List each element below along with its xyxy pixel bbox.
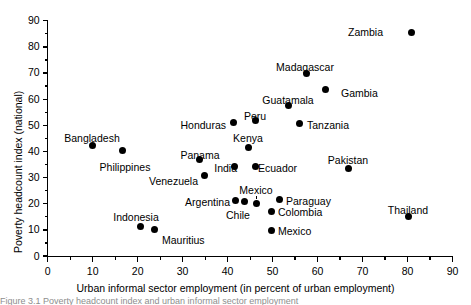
figure-caption: Figure 3.1 Poverty headcount index and u… bbox=[0, 296, 471, 305]
x-tick bbox=[407, 256, 408, 261]
data-point-label: Pakistan bbox=[288, 155, 408, 166]
y-tick-label: 80 bbox=[4, 41, 40, 52]
x-tick bbox=[317, 256, 318, 261]
data-point[interactable] bbox=[201, 172, 208, 179]
x-tick bbox=[227, 256, 228, 261]
x-minor-tick bbox=[205, 256, 206, 260]
x-tick bbox=[362, 256, 363, 261]
x-minor-tick bbox=[384, 256, 385, 260]
data-point-label: Argentina bbox=[0, 197, 230, 208]
data-point-label: Colombia bbox=[278, 207, 322, 218]
x-tick bbox=[272, 256, 273, 261]
x-tick-label: 50 bbox=[253, 266, 293, 277]
data-point[interactable] bbox=[296, 120, 303, 127]
y-minor-tick bbox=[45, 242, 49, 243]
data-point-label: Kenya bbox=[188, 133, 308, 144]
data-point[interactable] bbox=[408, 29, 415, 36]
x-tick-label: 30 bbox=[163, 266, 203, 277]
y-tick bbox=[43, 229, 48, 230]
x-tick-label: 10 bbox=[73, 266, 113, 277]
x-minor-tick bbox=[429, 256, 430, 260]
x-tick-label: 80 bbox=[388, 266, 428, 277]
x-tick bbox=[47, 256, 48, 261]
y-minor-tick bbox=[45, 112, 49, 113]
data-point-label: Mexico bbox=[196, 185, 316, 196]
data-point-label: Thailand bbox=[348, 205, 468, 216]
x-tick-label: 40 bbox=[208, 266, 248, 277]
y-tick bbox=[43, 99, 48, 100]
x-tick-label: 90 bbox=[433, 266, 471, 277]
x-tick-label: 0 bbox=[28, 266, 68, 277]
data-point-label: Paraguay bbox=[286, 196, 331, 207]
data-point-label: Panama bbox=[140, 150, 260, 161]
data-point[interactable] bbox=[119, 147, 126, 154]
y-tick bbox=[43, 20, 48, 21]
data-point[interactable] bbox=[253, 200, 260, 207]
x-tick-label: 60 bbox=[298, 266, 338, 277]
y-minor-tick bbox=[45, 216, 49, 217]
x-tick bbox=[137, 256, 138, 261]
x-tick bbox=[92, 256, 93, 261]
data-point[interactable] bbox=[276, 196, 283, 203]
data-point-label: Tanzania bbox=[307, 120, 349, 131]
y-minor-tick bbox=[45, 190, 49, 191]
x-axis-title: Urban informal sector employment (in per… bbox=[0, 283, 471, 294]
scatter-chart: 0102030405060708090 0102030405060708090 … bbox=[0, 0, 471, 305]
x-minor-tick bbox=[250, 256, 251, 260]
data-point[interactable] bbox=[151, 226, 158, 233]
y-minor-tick bbox=[45, 59, 49, 60]
data-point-label: Mexico bbox=[278, 226, 311, 237]
data-point-label: Indonesia bbox=[76, 212, 196, 223]
data-point-label: Bangladesh bbox=[32, 133, 152, 144]
data-point-label: Madagascar bbox=[245, 62, 365, 73]
data-point-label: Honduras bbox=[0, 120, 226, 131]
data-point[interactable] bbox=[322, 86, 329, 93]
x-minor-tick bbox=[339, 256, 340, 260]
data-point[interactable] bbox=[241, 198, 248, 205]
data-point[interactable] bbox=[137, 223, 144, 230]
y-tick bbox=[43, 151, 48, 152]
data-point[interactable] bbox=[232, 197, 239, 204]
x-minor-tick bbox=[70, 256, 71, 260]
y-tick-label: 90 bbox=[4, 15, 40, 26]
data-point[interactable] bbox=[268, 227, 275, 234]
data-point-label: Mauritius bbox=[162, 235, 205, 246]
data-point-label: Guatamala bbox=[228, 95, 348, 106]
label-leader-line bbox=[256, 196, 257, 199]
y-tick bbox=[43, 72, 48, 73]
y-tick-label: 70 bbox=[4, 67, 40, 78]
x-minor-tick bbox=[160, 256, 161, 260]
y-tick bbox=[43, 46, 48, 47]
y-minor-tick bbox=[45, 85, 49, 86]
x-tick bbox=[452, 256, 453, 261]
x-minor-tick bbox=[115, 256, 116, 260]
x-tick-label: 20 bbox=[118, 266, 158, 277]
x-tick-label: 70 bbox=[343, 266, 383, 277]
data-point-label: Zambia bbox=[0, 27, 383, 38]
y-axis-title: Poverty headcount index (national) bbox=[13, 91, 24, 253]
plot-area: 0102030405060708090 0102030405060708090 … bbox=[0, 0, 471, 305]
data-point-label: Venezuela bbox=[0, 176, 198, 187]
data-point[interactable] bbox=[230, 119, 237, 126]
x-tick bbox=[182, 256, 183, 261]
x-minor-tick bbox=[294, 256, 295, 260]
